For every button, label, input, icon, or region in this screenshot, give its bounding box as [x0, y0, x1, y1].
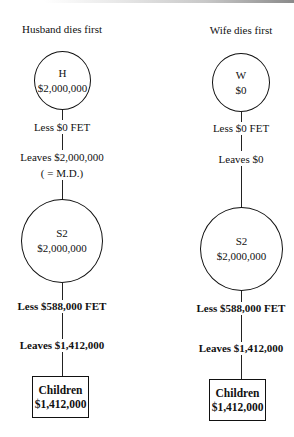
node-value: $1,412,000	[212, 400, 264, 414]
marital-deduction-note: ( = M.D.)	[41, 167, 83, 179]
right-title: Wife dies first	[210, 24, 272, 36]
node-label: Children	[39, 383, 83, 397]
left-children-node: Children $1,412,000	[32, 376, 89, 418]
left-step1-tax: Less $0 FET	[34, 121, 90, 133]
node-value: $2,000,000	[217, 249, 267, 264]
node-value: $0	[236, 83, 247, 98]
node-label: W	[236, 68, 246, 83]
connector	[62, 110, 63, 120]
left-s2-node: S2 $2,000,000	[21, 199, 103, 283]
right-s2-node: S2 $2,000,000	[200, 207, 283, 291]
node-label: S2	[236, 234, 248, 249]
right-step1-leaves: Leaves $0	[219, 153, 264, 165]
node-label: S2	[56, 226, 68, 241]
right-step1-tax: Less $0 FET	[213, 122, 269, 134]
node-value: $2,000,000	[37, 241, 87, 256]
node-value: $1,412,000	[35, 397, 87, 411]
connector	[62, 134, 63, 150]
connector	[62, 313, 63, 339]
node-label: Children	[216, 386, 260, 400]
left-step2-tax: Less $588,000 FET	[18, 300, 107, 312]
left-step2-leaves: Leaves $1,412,000	[20, 339, 105, 351]
connector	[241, 355, 242, 380]
node-value: $2,000,000	[38, 81, 88, 96]
right-step2-tax: Less $588,000 FET	[197, 302, 286, 314]
wife-node: W $0	[212, 53, 270, 112]
connector	[62, 180, 63, 200]
connector	[241, 291, 242, 302]
right-children-node: Children $1,412,000	[209, 379, 266, 421]
left-step1-leaves: Leaves $2,000,000	[20, 151, 103, 163]
right-step2-leaves: Leaves $1,412,000	[199, 342, 284, 354]
connector	[62, 352, 63, 377]
connector	[62, 283, 63, 300]
left-title: Husband dies first	[22, 23, 102, 35]
node-label: H	[59, 66, 67, 81]
husband-node: H $2,000,000	[34, 51, 91, 110]
connector	[241, 135, 242, 151]
connector	[241, 112, 242, 122]
top-edge-shadow	[0, 0, 294, 3]
connector	[241, 315, 242, 342]
connector	[241, 166, 242, 208]
